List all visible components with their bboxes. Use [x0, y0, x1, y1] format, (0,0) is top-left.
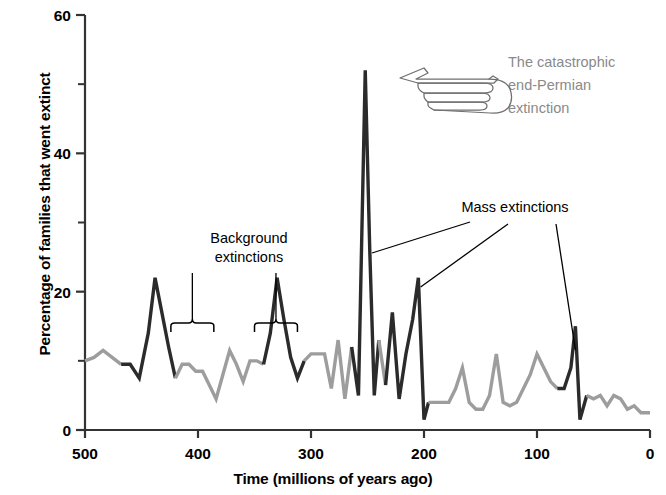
background-extinctions-left-bracket	[171, 319, 214, 332]
background-extinction-segment	[587, 395, 650, 412]
background-extinctions-label-line2: extinctions	[215, 249, 284, 265]
end-permian-label-line2: end-Permian	[508, 77, 591, 93]
background-extinction-segment	[304, 340, 351, 399]
hand-stroke-4	[434, 79, 512, 113]
mass-extinctions-leader	[372, 222, 470, 253]
hand-stroke-0	[400, 68, 498, 83]
hand-stroke-2	[424, 93, 490, 102]
x-tick-label: 500	[72, 445, 98, 462]
pointing-hand-left-icon	[400, 68, 512, 113]
mass-extinction-segment	[557, 326, 586, 419]
x-tick-label: 400	[185, 445, 211, 462]
x-tick-label: 200	[411, 445, 437, 462]
background-extinction-segment	[175, 350, 263, 398]
x-tick-label: 0	[646, 445, 655, 462]
background-extinction-segment	[429, 354, 558, 409]
x-tick-label: 300	[298, 445, 324, 462]
background-extinctions-label-line1: Background	[210, 230, 287, 246]
background-extinction-segment	[85, 350, 121, 364]
mass-extinction-segment	[386, 278, 429, 420]
chart-figure: Percentage of families that went extinct…	[0, 0, 666, 495]
background-extinctions-right-bracket	[255, 319, 298, 332]
end-permian-label-line3: extinction	[508, 100, 569, 116]
mass-extinctions-leader	[556, 224, 575, 350]
end-permian-label-line1: The catastrophic	[508, 54, 615, 70]
plot-canvas: 50040030020010000204060 Backgroundextinc…	[0, 0, 666, 495]
mass-extinction-segment	[352, 70, 379, 395]
y-tick-label: 60	[54, 7, 71, 24]
y-tick-label: 0	[62, 422, 71, 439]
y-tick-label: 40	[54, 145, 71, 162]
axis-layer: 50040030020010000204060	[54, 7, 655, 462]
y-tick-label: 20	[54, 284, 71, 301]
hand-stroke-1	[418, 83, 493, 93]
annotation-layer: BackgroundextinctionsMass extinctionsThe…	[171, 54, 615, 350]
mass-extinction-segment	[121, 278, 175, 378]
mass-extinctions-label: Mass extinctions	[461, 199, 568, 215]
x-tick-label: 100	[524, 445, 550, 462]
data-curve-layer	[85, 70, 650, 419]
hand-stroke-3	[428, 102, 487, 110]
